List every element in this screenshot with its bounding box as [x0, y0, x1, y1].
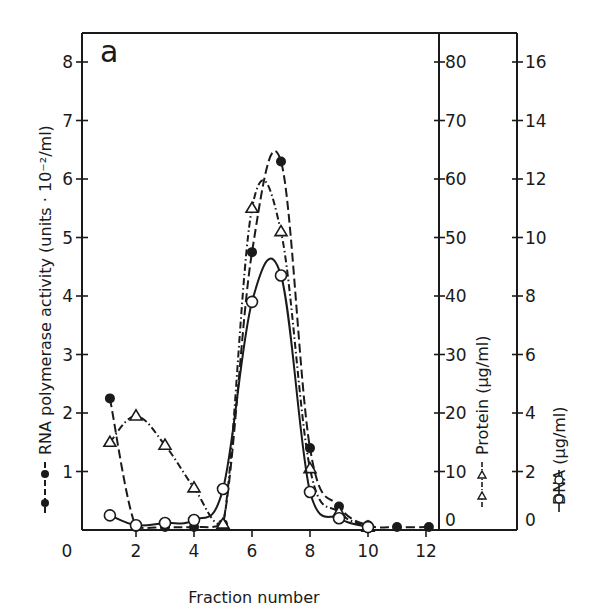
legend-triangle-icon — [478, 471, 486, 478]
data-point — [104, 510, 115, 521]
protein-tick-label: 40 — [445, 286, 467, 306]
series-line-rna-polymerase-activity — [110, 151, 429, 528]
dna-tick-label: 14 — [525, 111, 547, 131]
data-point — [247, 247, 257, 257]
data-point — [105, 393, 115, 403]
data-point — [218, 484, 229, 495]
dna-tick-label: 10 — [525, 228, 547, 248]
protein-tick-label: 60 — [445, 169, 467, 189]
protein-axis-title: Protein (µg/ml) — [473, 336, 492, 455]
left-tick-label: 3 — [62, 345, 73, 365]
data-point — [188, 482, 200, 492]
x-tick-label: 10 — [357, 541, 379, 561]
protein-tick-label: 80 — [445, 52, 467, 72]
legend-open-circle-icon — [555, 476, 563, 484]
left-tick-label: 6 — [62, 169, 73, 189]
data-point — [131, 520, 142, 531]
left-tick-label: 5 — [62, 228, 73, 248]
protein-tick-label: 50 — [445, 228, 467, 248]
dna-tick-label: 4 — [525, 403, 536, 423]
dna-tick-label: 12 — [525, 169, 547, 189]
data-point — [334, 513, 345, 524]
data-point — [424, 522, 434, 532]
protein-tick-label: 70 — [445, 111, 467, 131]
left-tick-label: 8 — [62, 52, 73, 72]
x-tick-label: 0 — [62, 541, 73, 561]
series-line-dna — [110, 259, 368, 527]
data-point — [160, 517, 171, 528]
dna-tick-label: 6 — [525, 345, 536, 365]
left-tick-label: 2 — [62, 403, 73, 423]
dna-tick-label: 2 — [525, 462, 536, 482]
protein-tick-label: 30 — [445, 345, 467, 365]
legend-filled-circle-icon — [41, 470, 49, 478]
data-point — [392, 522, 402, 532]
series-line-protein — [110, 180, 368, 527]
data-point — [246, 202, 258, 212]
data-point — [276, 270, 287, 281]
protein-tick-label: 20 — [445, 403, 467, 423]
x-tick-label: 2 — [131, 541, 142, 561]
left-tick-label: 1 — [62, 462, 73, 482]
left-axis-title: RNA polymerase activity (units · 10⁻²/ml… — [36, 125, 55, 455]
x-tick-label: 4 — [189, 541, 200, 561]
x-tick-label: 6 — [247, 541, 258, 561]
data-point — [247, 296, 258, 307]
data-point — [275, 226, 287, 236]
dna-tick-label: 8 — [525, 286, 536, 306]
data-point — [363, 522, 374, 533]
x-tick-label: 8 — [305, 541, 316, 561]
dna-tick-label: 16 — [525, 52, 547, 72]
protein-tick-label: 10 — [445, 462, 467, 482]
x-axis-title: Fraction number — [188, 588, 320, 607]
protein-tick-label: 0 — [445, 510, 456, 530]
data-point — [305, 486, 316, 497]
legend-filled-circle-icon — [41, 499, 49, 507]
data-point — [189, 515, 200, 526]
data-point — [130, 410, 142, 420]
left-tick-label: 4 — [62, 286, 73, 306]
x-tick-label: 12 — [415, 541, 437, 561]
chart: a024681012Fraction number123456780102030… — [0, 0, 601, 612]
dna-tick-label: 0 — [525, 510, 536, 530]
legend-triangle-icon — [478, 492, 486, 499]
left-tick-label: 7 — [62, 111, 73, 131]
legend-open-circle-icon — [555, 495, 563, 503]
panel-label: a — [100, 34, 118, 69]
data-point — [276, 156, 286, 166]
